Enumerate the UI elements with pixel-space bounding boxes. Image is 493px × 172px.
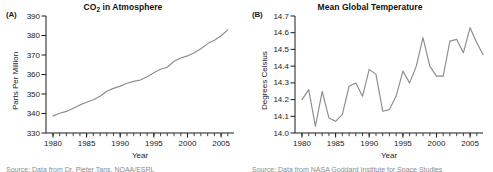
climate-figure: (A) CO2 in Atmosphere xyxy=(0,0,493,172)
panel-a-y-tick-330: 330 xyxy=(14,129,40,138)
panel-b-x-tick-1980: 1980 xyxy=(289,139,315,148)
panel-b-x-tick-1990: 1990 xyxy=(356,139,382,148)
panel-a-y-ticks xyxy=(42,16,47,133)
panel-a-x-tick-1990: 1990 xyxy=(107,139,133,148)
panel-b-y-tick-14-5: 14.5 xyxy=(261,45,289,54)
panel-a-y-tick-390: 390 xyxy=(14,12,40,21)
panel-a-x-major-ticks xyxy=(53,133,221,138)
panel-a-x-tick-2005: 2005 xyxy=(208,139,234,148)
panel-b-y-tick-14-7: 14.7 xyxy=(261,12,289,21)
panel-a-y-tick-370: 370 xyxy=(14,51,40,60)
panel-a-co2-chart: (A) CO2 in Atmosphere xyxy=(0,0,246,172)
panel-a-x-tick-2000: 2000 xyxy=(175,139,201,148)
panel-a-x-tick-1985: 1985 xyxy=(74,139,100,148)
panel-a-y-axis-title: Parts Per Million xyxy=(11,52,20,110)
panel-b-y-ticks xyxy=(291,16,296,133)
panel-a-data-line xyxy=(53,30,228,116)
panel-a-source-note: Source: Data from Dr. Pieter Tans, NOAA/… xyxy=(6,166,154,172)
panel-a-y-tick-380: 380 xyxy=(14,31,40,40)
panel-b-x-tick-2005: 2005 xyxy=(457,139,483,148)
panel-b-y-tick-14-0: 14.0 xyxy=(261,129,289,138)
panel-b-y-tick-14-6: 14.6 xyxy=(261,28,289,37)
panel-b-y-tick-14-1: 14.1 xyxy=(261,112,289,121)
panel-a-y-tick-340: 340 xyxy=(14,109,40,118)
panel-b-temperature-chart: (B) Mean Global Temperature xyxy=(247,0,493,172)
panel-b-y-tick-14-4: 14.4 xyxy=(261,62,289,71)
panel-b-y-tick-14-3: 14.3 xyxy=(261,78,289,87)
panel-b-x-major-ticks xyxy=(302,133,470,138)
panel-b-x-axis-title: Year xyxy=(295,151,483,160)
panel-b-x-tick-1985: 1985 xyxy=(323,139,349,148)
panel-b-y-tick-14-2: 14.2 xyxy=(261,95,289,104)
panel-a-y-tick-360: 360 xyxy=(14,70,40,79)
panel-a-y-tick-350: 350 xyxy=(14,90,40,99)
panel-b-x-tick-2000: 2000 xyxy=(424,139,450,148)
panel-a-x-axis-title: Year xyxy=(46,151,234,160)
panel-b-data-line xyxy=(302,28,483,127)
panel-a-x-tick-1995: 1995 xyxy=(141,139,167,148)
panel-a-x-tick-1980: 1980 xyxy=(40,139,66,148)
panel-b-source-note: Source: Data from NASA Goddard Institute… xyxy=(252,166,442,172)
panel-b-x-tick-1995: 1995 xyxy=(390,139,416,148)
